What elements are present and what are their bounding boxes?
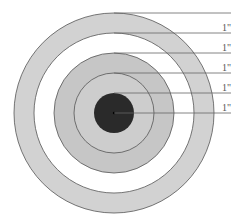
dimension-label-3: 1": [222, 62, 231, 73]
dimension-label-5: 1": [222, 102, 231, 113]
dimension-label-4: 1": [222, 82, 231, 93]
dimension-label-1: 1": [222, 22, 231, 33]
dimension-label-2: 1": [222, 42, 231, 53]
target-diagram: 1" 1" 1" 1" 1": [0, 0, 242, 221]
